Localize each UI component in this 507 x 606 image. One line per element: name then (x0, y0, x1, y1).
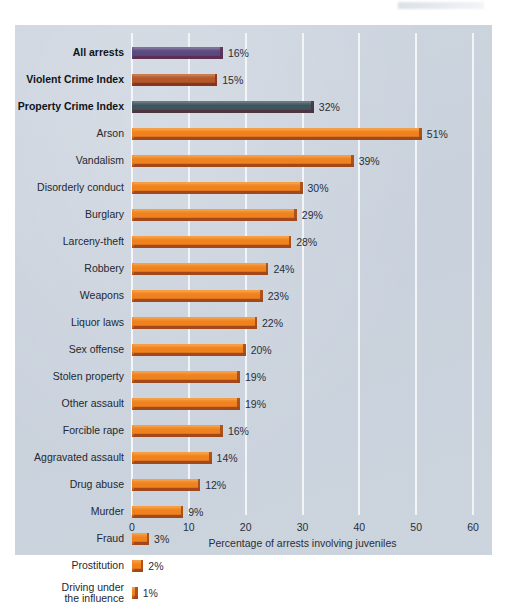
bar-cap (220, 425, 223, 437)
bar: 9% (132, 506, 183, 518)
bar: 51% (132, 128, 422, 140)
bar: 16% (132, 47, 223, 59)
category-label-line: Murder (91, 506, 124, 518)
bar-row: Larceny-theft28% (132, 228, 473, 255)
category-label-line: Liquor laws (71, 317, 124, 329)
category-label: Vandalism (76, 155, 124, 167)
bar-row: Liquor laws22% (132, 309, 473, 336)
bar-row: Violent Crime Index15% (132, 66, 473, 93)
bar-bottom (134, 380, 240, 383)
bar: 19% (132, 398, 240, 410)
bar-row: Forcible rape16% (132, 417, 473, 444)
bar-top (134, 209, 297, 211)
category-label-line: Burglary (85, 209, 124, 221)
category-label: Fraud (97, 533, 124, 545)
category-label: Violent Crime Index (26, 74, 124, 86)
bar-value-label: 23% (268, 290, 289, 302)
category-label-line: Drug abuse (70, 479, 124, 491)
bar-value-label: 20% (251, 344, 272, 356)
category-label: Murder (91, 506, 124, 518)
bar-row: Property Crime Index32% (132, 93, 473, 120)
bar-row: Arson51% (132, 120, 473, 147)
bar: 14% (132, 452, 212, 464)
bar-bottom (134, 353, 246, 356)
bar-top (134, 290, 263, 292)
bar-bottom (134, 56, 223, 59)
bar-value-label: 24% (273, 263, 294, 275)
category-label-line: Prostitution (71, 560, 124, 572)
bar-top (134, 506, 183, 508)
chart-panel: All arrests16%Violent Crime Index15%Prop… (15, 25, 492, 555)
bar-cap (237, 371, 240, 383)
bar: 2% (132, 560, 143, 572)
bar-top (134, 47, 223, 49)
bar-bottom (134, 191, 303, 194)
bar-row: All arrests16% (132, 39, 473, 66)
scan-artifact (398, 2, 484, 9)
bar-value-label: 9% (188, 506, 203, 518)
bar-cap (419, 128, 422, 140)
bar-bottom (134, 218, 297, 221)
category-label-line: Aggravated assault (34, 452, 124, 464)
bar-cap (141, 560, 144, 572)
bar-value-label: 32% (319, 101, 340, 113)
bar-top (134, 344, 246, 346)
bar-row: Other assault19% (132, 390, 473, 417)
bar-bottom (134, 299, 263, 302)
bar: 32% (132, 101, 314, 113)
x-tick-60: 60 (467, 521, 479, 533)
bar: 30% (132, 182, 303, 194)
bar-row: Stolen property19% (132, 363, 473, 390)
bar: 19% (132, 371, 240, 383)
bar: 24% (132, 263, 268, 275)
bar-value-label: 1% (143, 587, 158, 599)
bar-cap (300, 182, 303, 194)
category-label-line: Disorderly conduct (37, 182, 124, 194)
category-label-line: Violent Crime Index (26, 74, 124, 86)
category-label: Other assault (62, 398, 124, 410)
category-label-line: Fraud (97, 533, 124, 545)
bar-top (134, 101, 314, 103)
category-label: Arson (97, 128, 124, 140)
category-label: Aggravated assault (34, 452, 124, 464)
bar-value-label: 29% (302, 209, 323, 221)
bar-cap (181, 506, 184, 518)
bar-top (134, 425, 223, 427)
x-tick-30: 30 (297, 521, 309, 533)
bar: 29% (132, 209, 297, 221)
bar-cap (209, 452, 212, 464)
bar-row: Prostitution2% (132, 552, 473, 579)
bar: 23% (132, 290, 263, 302)
bar-top (134, 128, 422, 130)
bar-value-label: 16% (228, 47, 249, 59)
bar: 12% (132, 479, 200, 491)
category-label: Driving underthe influence (62, 581, 124, 604)
bar-bottom (134, 272, 268, 275)
x-axis-tick-labels: 0102030405060 (132, 521, 473, 535)
category-label-line: Stolen property (53, 371, 124, 383)
bar-value-label: 15% (222, 74, 243, 86)
bar: 1% (132, 587, 138, 599)
bar-row: Sex offense20% (132, 336, 473, 363)
bar-row: Robbery24% (132, 255, 473, 282)
bar-top (134, 452, 212, 454)
bar-row: Disorderly conduct30% (132, 174, 473, 201)
bar-top (134, 263, 268, 265)
bar-top (134, 236, 291, 238)
bar-bottom (134, 434, 223, 437)
bar-cap (266, 263, 269, 275)
category-label-line: Robbery (84, 263, 124, 275)
category-label-line: Other assault (62, 398, 124, 410)
bar-cap (243, 344, 246, 356)
bar-rows: All arrests16%Violent Crime Index15%Prop… (132, 33, 473, 515)
category-label: Property Crime Index (18, 101, 124, 113)
bar-cap (294, 209, 297, 221)
category-label: Drug abuse (70, 479, 124, 491)
bar-bottom (134, 407, 240, 410)
bar: 22% (132, 317, 257, 329)
bar-cap (215, 74, 218, 86)
x-tick-50: 50 (410, 521, 422, 533)
bar-value-label: 22% (262, 317, 283, 329)
category-label-line: Larceny-theft (63, 236, 124, 248)
bar-cap (255, 317, 258, 329)
